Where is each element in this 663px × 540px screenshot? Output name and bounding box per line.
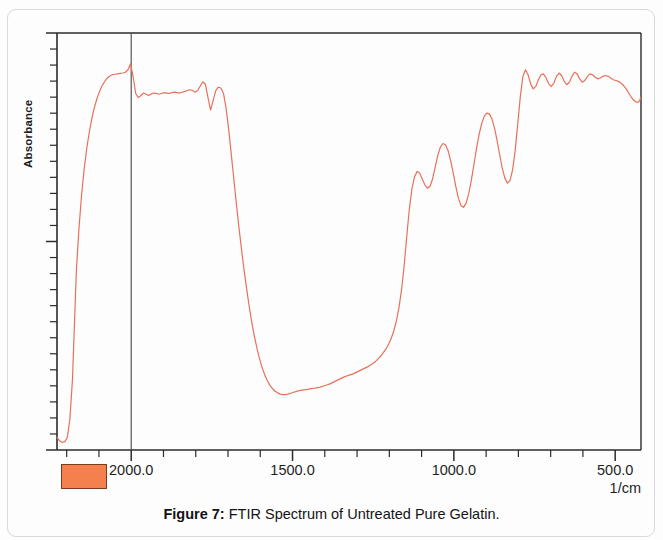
figure-caption-label: Figure 7:: [163, 506, 224, 522]
x-axis-tick-label: 1000.0: [432, 462, 476, 478]
ftir-spectrum-plot: [0, 0, 663, 500]
plot-area: Absorbance 2000.01500.01000.0500.0 1/cm: [0, 0, 663, 500]
spectrum-series-swatch: [61, 464, 107, 489]
x-axis-tick-label: 2000.0: [109, 462, 153, 478]
y-axis-title: Absorbance: [22, 148, 34, 168]
figure-container: Absorbance 2000.01500.01000.0500.0 1/cm …: [0, 0, 663, 540]
x-axis-unit-label: 1/cm: [610, 480, 641, 496]
figure-caption-text: FTIR Spectrum of Untreated Pure Gelatin.: [225, 506, 500, 522]
x-axis-tick-label: 1500.0: [270, 462, 314, 478]
x-axis-tick-label: 500.0: [597, 462, 633, 478]
figure-caption: Figure 7: FTIR Spectrum of Untreated Pur…: [0, 506, 663, 522]
